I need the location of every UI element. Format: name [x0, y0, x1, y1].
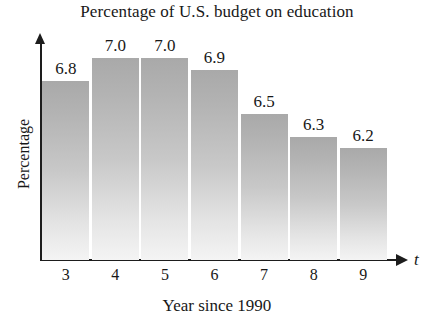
- bar-value-label: 7.0: [88, 36, 143, 56]
- bar-value-label: 6.3: [286, 115, 341, 135]
- bar-value-label: 7.0: [137, 36, 192, 56]
- x-tick-label: 7: [237, 266, 292, 284]
- bar: [340, 148, 387, 260]
- chart-screenshot: Percentage of U.S. budget on education t…: [0, 0, 434, 323]
- bar-value-label: 6.2: [336, 126, 391, 146]
- x-tick-label: 6: [187, 266, 242, 284]
- x-axis-arrow-icon: [396, 254, 408, 266]
- bar-value-label: 6.8: [38, 59, 93, 79]
- bar-value-label: 6.9: [187, 48, 242, 68]
- x-tick-label: 5: [137, 266, 192, 284]
- y-axis-title: Percentage: [15, 99, 33, 209]
- bar: [290, 137, 337, 260]
- bar-value-label: 6.5: [237, 92, 292, 112]
- x-axis-variable-label: t: [414, 250, 419, 270]
- chart-title: Percentage of U.S. budget on education: [0, 2, 434, 22]
- x-tick-label: 3: [38, 266, 93, 284]
- bar: [191, 70, 238, 260]
- bar: [92, 58, 139, 260]
- bar: [42, 81, 89, 260]
- x-tick-label: 9: [336, 266, 391, 284]
- x-tick-label: 4: [88, 266, 143, 284]
- x-axis-title: Year since 1990: [0, 296, 434, 316]
- x-tick-label: 8: [286, 266, 341, 284]
- bar: [141, 58, 188, 260]
- bar: [241, 114, 288, 260]
